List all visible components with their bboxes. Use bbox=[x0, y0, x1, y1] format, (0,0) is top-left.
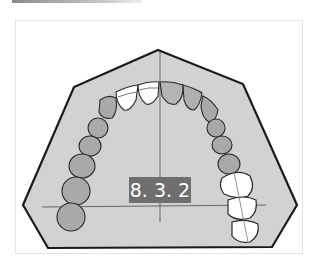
figure-label: 8. 3. 2 bbox=[129, 177, 191, 203]
dental-arch-diagram bbox=[0, 0, 318, 277]
